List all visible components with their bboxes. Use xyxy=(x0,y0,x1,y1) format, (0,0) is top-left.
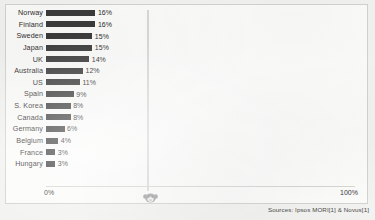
bar xyxy=(46,10,95,16)
axis-tick-0: 0% xyxy=(44,189,54,196)
bar-row: Norway16% xyxy=(0,7,375,19)
bar-track: 12% xyxy=(46,65,100,77)
bar-track: 14% xyxy=(46,53,106,65)
bar-track: 3% xyxy=(46,158,68,170)
bar-category-label: Canada xyxy=(0,114,43,121)
bar-category-label: Sweden xyxy=(0,32,43,39)
bar-category-label: Hungary xyxy=(0,160,43,167)
bar xyxy=(46,68,83,74)
bar-track: 11% xyxy=(46,77,96,89)
bar-track: 9% xyxy=(46,88,86,100)
bar-row: UK14% xyxy=(0,53,375,65)
bar-value-label: 6% xyxy=(67,125,77,132)
bar-row: Spain9% xyxy=(0,88,375,100)
bar-value-label: 15% xyxy=(95,33,109,40)
bar-value-label: 8% xyxy=(73,102,83,109)
source-credit: Sources: Ipsos MORI[1] & Novus[1] xyxy=(268,206,369,213)
bar-row: US11% xyxy=(0,77,375,89)
bar-category-label: US xyxy=(0,79,43,86)
bar-value-label: 3% xyxy=(58,160,68,167)
bar xyxy=(46,126,65,132)
bar-track: 8% xyxy=(46,100,83,112)
bar-row: Canada8% xyxy=(0,111,375,123)
bar-value-label: 4% xyxy=(61,137,71,144)
bar xyxy=(46,114,71,120)
bar-track: 6% xyxy=(46,123,77,135)
bar xyxy=(46,138,58,144)
bar xyxy=(46,103,71,109)
bar-row: S. Korea8% xyxy=(0,100,375,112)
bar-row: Finland16% xyxy=(0,19,375,31)
bar xyxy=(46,21,95,27)
bar xyxy=(46,149,55,155)
bar-row: France3% xyxy=(0,146,375,158)
bar-value-label: 3% xyxy=(58,149,68,156)
bar-category-label: Belgium xyxy=(0,137,43,144)
bar-track: 3% xyxy=(46,146,68,158)
axis-tick-100: 100% xyxy=(340,189,358,196)
bar xyxy=(46,91,74,97)
bar-category-label: Spain xyxy=(0,90,43,97)
bar-category-label: Japan xyxy=(0,44,43,51)
bar-track: 15% xyxy=(46,42,109,54)
bar-track: 16% xyxy=(46,7,112,19)
bar-row: Germany6% xyxy=(0,123,375,135)
bar-value-label: 11% xyxy=(82,79,96,86)
bar xyxy=(46,33,92,39)
bar-value-label: 15% xyxy=(95,44,109,51)
bar-category-label: S. Korea xyxy=(0,102,43,109)
bar-row: Japan15% xyxy=(0,42,375,54)
bar-value-label: 14% xyxy=(92,56,106,63)
bar-category-label: Australia xyxy=(0,67,43,74)
bar-row: Belgium4% xyxy=(0,135,375,147)
bar-value-label: 8% xyxy=(73,114,83,121)
bar-value-label: 9% xyxy=(76,91,86,98)
bar-track: 15% xyxy=(46,30,109,42)
bar-category-label: France xyxy=(0,149,43,156)
bar-track: 4% xyxy=(46,135,71,147)
bar-track: 16% xyxy=(46,19,112,31)
bar-value-label: 16% xyxy=(98,9,112,16)
circular-logo-watermark-icon xyxy=(142,190,159,205)
bar-category-label: UK xyxy=(0,56,43,63)
bar xyxy=(46,45,92,51)
bar-value-label: 12% xyxy=(86,67,100,74)
bar-row: Sweden15% xyxy=(0,30,375,42)
bar-value-label: 16% xyxy=(98,21,112,28)
bar-track: 8% xyxy=(46,111,83,123)
bar-row: Australia12% xyxy=(0,65,375,77)
bar-category-label: Norway xyxy=(0,9,43,16)
bar-row: Hungary3% xyxy=(0,158,375,170)
bar-chart-rows: Norway16%Finland16%Sweden15%Japan15%UK14… xyxy=(0,7,375,170)
bar xyxy=(46,161,55,167)
bar xyxy=(46,79,80,85)
x-axis-line xyxy=(46,186,355,187)
bar xyxy=(46,56,89,62)
bar-category-label: Germany xyxy=(0,125,43,132)
bar-category-label: Finland xyxy=(0,21,43,28)
